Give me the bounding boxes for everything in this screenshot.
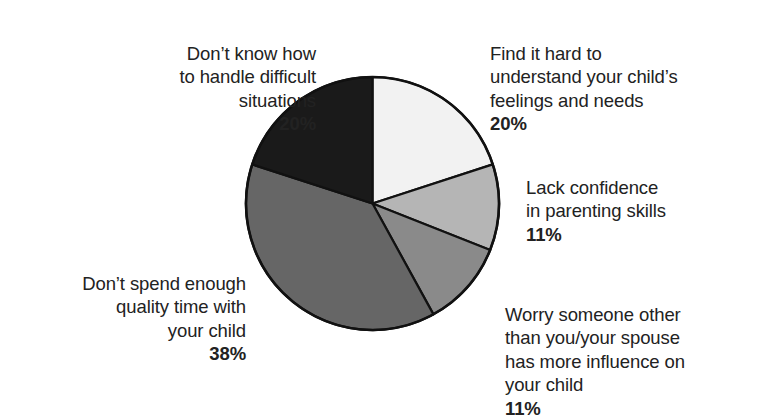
slice-label-worry-influence-text: Worry someone other than you/your spouse… [505,304,685,396]
slice-value-quality-time: 38% [22,342,246,366]
slice-label-understand-feelings: Find it hard to understand your child’s … [490,18,758,159]
slice-label-quality-time-text: Don’t spend enough quality time with you… [82,273,246,341]
slice-label-lack-confidence: Lack confidence in parenting skills 11% [526,152,758,270]
slice-label-lack-confidence-text: Lack confidence in parenting skills [526,177,666,222]
slice-label-difficult-situations: Don’t know how to handle difficult situa… [84,18,316,159]
slice-value-difficult-situations: 20% [84,112,316,136]
slice-label-worry-influence: Worry someone other than you/your spouse… [505,279,761,419]
slice-label-understand-feelings-text: Find it hard to understand your child’s … [490,43,678,111]
slice-label-difficult-situations-text: Don’t know how to handle difficult situa… [179,43,316,111]
slice-value-understand-feelings: 20% [490,112,758,136]
slice-value-worry-influence: 11% [505,397,761,419]
slice-value-lack-confidence: 11% [526,223,758,247]
slice-label-quality-time: Don’t spend enough quality time with you… [22,248,246,389]
